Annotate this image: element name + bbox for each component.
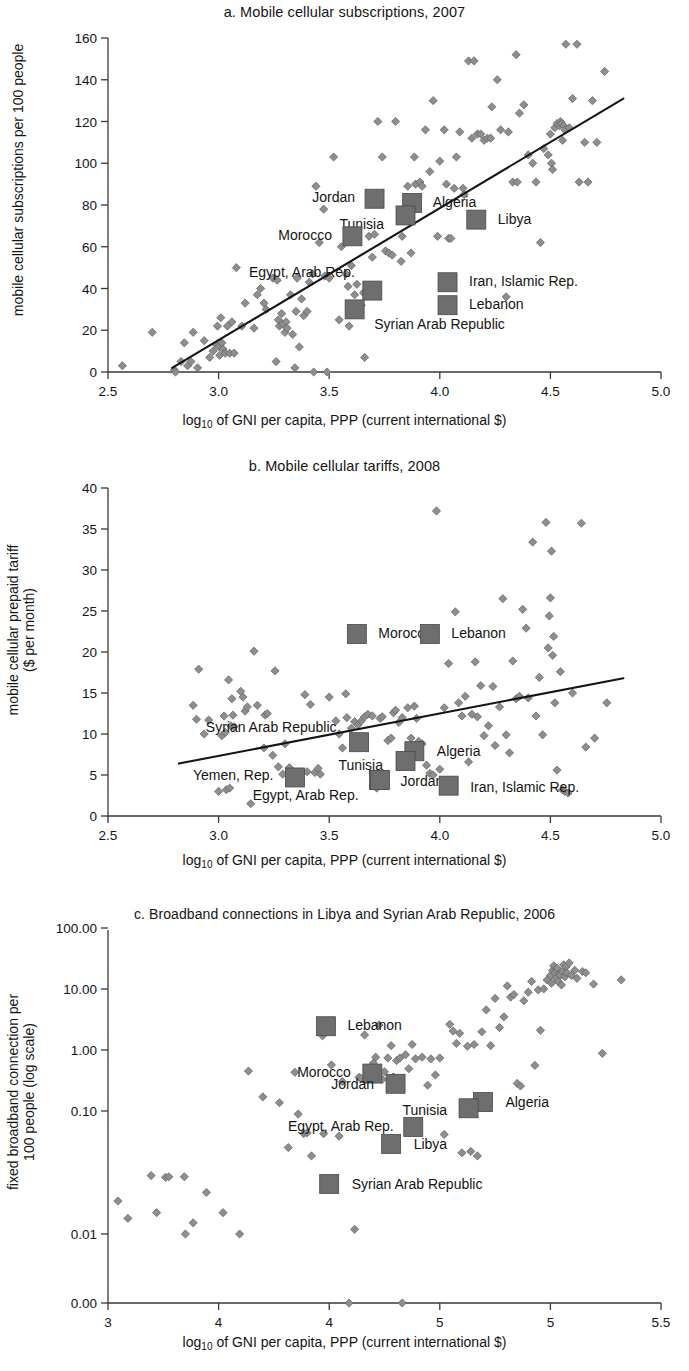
panel-b-x-axis-title-sub: 10 (201, 859, 212, 870)
svg-text:4: 4 (215, 1315, 223, 1330)
panel-b: b. Mobile cellular tariffs, 2008 mobile … (0, 450, 689, 892)
svg-text:Lebanon: Lebanon (469, 296, 524, 312)
svg-text:Syrian Arab Republic: Syrian Arab Republic (352, 1176, 483, 1192)
svg-text:Tunisia: Tunisia (402, 1102, 447, 1118)
svg-text:Syrian Arab Republic: Syrian Arab Republic (374, 316, 505, 332)
svg-text:20: 20 (82, 323, 97, 338)
svg-text:2.5: 2.5 (99, 828, 118, 843)
svg-text:Libya: Libya (414, 1136, 448, 1152)
svg-text:120: 120 (74, 115, 97, 130)
svg-text:Libya: Libya (498, 211, 532, 227)
svg-text:4.5: 4.5 (541, 384, 560, 399)
panel-b-x-axis-title-post: of GNI per capita, PPP (current internat… (213, 852, 507, 868)
svg-text:40: 40 (82, 481, 97, 496)
svg-text:5.5: 5.5 (652, 1315, 671, 1330)
svg-text:100: 100 (74, 156, 97, 171)
panel-c-x-axis-title: log10 of GNI per capita, PPP (current in… (0, 1334, 689, 1352)
svg-text:Algeria: Algeria (433, 194, 477, 210)
panel-a-x-axis-title-pre: log (183, 412, 202, 428)
svg-text:30: 30 (82, 563, 97, 578)
panel-a-plot-area: 2.53.03.54.04.55.0020406080100120140160J… (0, 0, 689, 410)
svg-text:60: 60 (82, 240, 97, 255)
svg-text:5.0: 5.0 (652, 384, 671, 399)
svg-text:Morocco: Morocco (278, 227, 332, 243)
svg-text:4.5: 4.5 (541, 828, 560, 843)
svg-text:3.5: 3.5 (320, 384, 339, 399)
svg-text:20: 20 (82, 645, 97, 660)
svg-text:2.5: 2.5 (99, 384, 118, 399)
svg-text:5: 5 (436, 1315, 444, 1330)
svg-text:100.00: 100.00 (56, 921, 97, 936)
svg-text:5: 5 (547, 1315, 555, 1330)
svg-text:25: 25 (82, 604, 97, 619)
svg-text:40: 40 (82, 282, 97, 297)
svg-text:140: 140 (74, 73, 97, 88)
svg-text:Egypt, Arab Rep.: Egypt, Arab Rep. (253, 787, 359, 803)
svg-text:35: 35 (82, 522, 97, 537)
svg-text:0: 0 (89, 365, 97, 380)
svg-text:Jordan: Jordan (331, 1076, 374, 1092)
panel-c-x-axis-title-post: of GNI per capita, PPP (current internat… (213, 1334, 507, 1350)
figure-page: a. Mobile cellular subscriptions, 2007 m… (0, 0, 689, 1371)
svg-text:Jordan: Jordan (312, 189, 355, 205)
svg-text:4.0: 4.0 (430, 384, 449, 399)
svg-text:Jordan: Jordan (400, 773, 443, 789)
svg-text:Yemen, Rep.: Yemen, Rep. (193, 767, 273, 783)
svg-text:1.00: 1.00 (71, 1043, 97, 1058)
svg-text:5.0: 5.0 (652, 828, 671, 843)
svg-text:Syrian Arab Republic: Syrian Arab Republic (206, 719, 337, 735)
svg-text:3.0: 3.0 (209, 828, 228, 843)
svg-text:Lebanon: Lebanon (451, 625, 506, 641)
svg-text:0: 0 (89, 809, 97, 824)
panel-c-x-axis-title-sub: 10 (201, 1341, 212, 1352)
svg-text:0.00: 0.00 (71, 1296, 97, 1311)
svg-text:Iran, Islamic Rep.: Iran, Islamic Rep. (470, 779, 579, 795)
svg-text:Iran, Islamic Rep.: Iran, Islamic Rep. (469, 273, 578, 289)
svg-text:160: 160 (74, 31, 97, 46)
svg-text:Egypt, Arab Rep.: Egypt, Arab Rep. (249, 264, 355, 280)
panel-c-x-axis-title-pre: log (183, 1334, 202, 1350)
svg-text:Algeria: Algeria (437, 743, 481, 759)
svg-text:5: 5 (89, 768, 97, 783)
svg-text:4: 4 (325, 1315, 333, 1330)
svg-text:Egypt, Arab Rep.: Egypt, Arab Rep. (288, 1118, 394, 1134)
svg-text:10.00: 10.00 (63, 982, 97, 997)
svg-text:Lebanon: Lebanon (347, 1017, 402, 1033)
panel-a: a. Mobile cellular subscriptions, 2007 m… (0, 0, 689, 450)
svg-text:Algeria: Algeria (505, 1094, 549, 1110)
panel-b-plot-area: 2.53.03.54.04.55.00510152025303540Morocc… (0, 450, 689, 850)
svg-text:80: 80 (82, 198, 97, 213)
svg-text:3.5: 3.5 (320, 828, 339, 843)
panel-a-x-axis-title-post: of GNI per capita, PPP (current internat… (213, 412, 507, 428)
svg-text:4.0: 4.0 (430, 828, 449, 843)
panel-a-x-axis-title-sub: 10 (201, 419, 212, 430)
svg-text:10: 10 (82, 727, 97, 742)
svg-text:3: 3 (104, 1315, 112, 1330)
panel-b-x-axis-title: log10 of GNI per capita, PPP (current in… (0, 852, 689, 870)
svg-text:0.10: 0.10 (71, 1104, 97, 1119)
panel-c: c. Broadband connections in Libya and Sy… (0, 892, 689, 1371)
panel-b-x-axis-title-pre: log (183, 852, 202, 868)
svg-text:0.01: 0.01 (71, 1227, 97, 1242)
panel-a-x-axis-title: log10 of GNI per capita, PPP (current in… (0, 412, 689, 430)
svg-text:15: 15 (82, 686, 97, 701)
svg-text:3.0: 3.0 (209, 384, 228, 399)
panel-c-plot-area: 344555.5100.0010.001.000.100.010.00Leban… (0, 892, 689, 1332)
